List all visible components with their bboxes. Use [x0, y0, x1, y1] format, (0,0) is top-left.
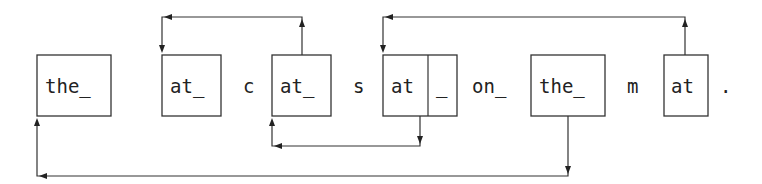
- arrowhead-down-icon: [380, 45, 386, 53]
- token-text: m: [627, 75, 638, 97]
- arrowhead-left-icon: [274, 143, 282, 149]
- arrow-at3-to-at-space: [380, 14, 688, 55]
- token-text: the_: [45, 75, 91, 98]
- token-text: the_: [539, 75, 585, 98]
- arrowhead-left-icon: [164, 14, 172, 20]
- arrowhead-down-icon: [159, 45, 165, 53]
- arrowhead-down-icon: [565, 166, 571, 174]
- token-text: on_: [472, 75, 507, 98]
- token-text: _: [436, 75, 448, 98]
- token-text: s: [353, 75, 364, 97]
- token-text: at: [671, 75, 694, 97]
- arrow-the2-to-the1: [34, 116, 571, 179]
- arrow-atspace-to-at2: [269, 116, 423, 149]
- token-text: at: [391, 75, 414, 97]
- token-text: c: [243, 75, 254, 97]
- token-text: .: [720, 75, 731, 97]
- token-text: at_: [280, 75, 315, 98]
- arrowhead-up-icon: [299, 19, 305, 27]
- arrowhead-down-icon: [417, 136, 423, 144]
- token-text: at_: [170, 75, 205, 98]
- arrowhead-left-icon: [385, 14, 393, 20]
- arrowhead-left-icon: [39, 173, 47, 179]
- arrowhead-up-icon: [269, 118, 275, 126]
- backreference-diagram: the_ at_ c at_ s at _ on_ the_ m at .: [0, 0, 762, 184]
- arrowhead-up-icon: [682, 19, 688, 27]
- arrow-at2-to-at1: [159, 14, 305, 55]
- arrowhead-up-icon: [34, 118, 40, 126]
